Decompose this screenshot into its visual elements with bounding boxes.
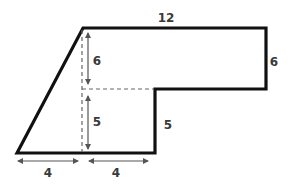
label-inner-step: 5 bbox=[164, 118, 172, 132]
label-bottom-right: 4 bbox=[112, 166, 120, 180]
label-lower-height: 5 bbox=[93, 115, 101, 129]
composite-shape-diagram: 12 6 5 6 5 4 4 bbox=[0, 0, 290, 184]
label-upper-height: 6 bbox=[93, 54, 101, 68]
shape-outline bbox=[17, 28, 266, 153]
label-right: 6 bbox=[270, 55, 278, 69]
label-bottom-left: 4 bbox=[44, 166, 52, 180]
label-top: 12 bbox=[158, 11, 175, 25]
